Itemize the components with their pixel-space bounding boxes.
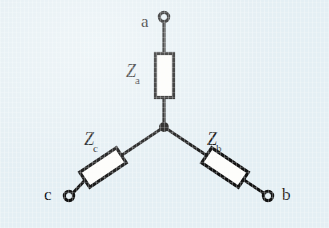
wire-neutral-to-zc (119, 127, 164, 157)
impedance-subscript-zb: b (216, 142, 222, 154)
impedance-box-zc-group (80, 148, 127, 187)
terminal-marker-a (159, 12, 168, 21)
impedance-box-zb (202, 148, 249, 187)
branch-c (64, 127, 164, 201)
terminal-marker-c (64, 191, 73, 200)
wire-neutral-to-zb (164, 127, 209, 157)
terminal-label-b: b (282, 186, 291, 203)
terminal-label-a: a (141, 13, 149, 30)
impedance-box-za (156, 54, 174, 98)
impedance-subscript-zc: c (93, 142, 98, 154)
impedance-label-zc: Zc (84, 130, 99, 152)
impedance-box-zb-group (202, 148, 249, 187)
terminal-marker-b (263, 191, 272, 200)
impedance-label-zb: Zb (207, 130, 223, 152)
impedance-label-za: Za (126, 62, 141, 84)
branch-a (156, 12, 174, 127)
neutral-node-dot (159, 122, 169, 132)
impedance-subscript-za: a (135, 74, 140, 86)
impedance-box-zc (80, 148, 127, 187)
circuit-diagram-figure: a b c Za Zb Zc (0, 0, 329, 228)
terminal-label-c: c (44, 186, 52, 203)
